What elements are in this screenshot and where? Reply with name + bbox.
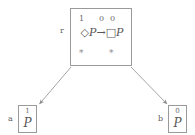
edge-root-to-b bbox=[131, 67, 167, 104]
asterisk-marker-0: * bbox=[79, 47, 84, 59]
asterisk-marker-1: * bbox=[109, 47, 114, 59]
box-operator-icon: □ bbox=[106, 26, 116, 39]
leaf-a-formula: P bbox=[19, 116, 36, 131]
leaf-world-label-a: a bbox=[8, 114, 13, 123]
root-world-box: 1 0 0 ◇P→□P * * bbox=[70, 8, 132, 66]
leaf-a-valuation: 1 bbox=[19, 107, 36, 116]
root-world-label: r bbox=[60, 26, 64, 35]
root-valuation-row: 1 0 0 bbox=[71, 13, 133, 25]
proposition-p-right: P bbox=[116, 26, 123, 39]
leaf-world-box-a: 1 P bbox=[18, 105, 37, 133]
diamond-operator-icon: ◇ bbox=[81, 26, 89, 39]
leaf-b-formula: P bbox=[169, 116, 186, 131]
root-formula: ◇P→□P bbox=[71, 26, 133, 40]
modal-logic-diagram: r 1 0 0 ◇P→□P * * a 1 P b 0 P bbox=[0, 0, 195, 135]
root-valuation-1: 0 bbox=[99, 13, 104, 25]
edge-root-to-a bbox=[40, 67, 72, 104]
leaf-b-valuation: 0 bbox=[169, 107, 186, 116]
root-valuation-0: 1 bbox=[79, 13, 84, 25]
leaf-world-label-b: b bbox=[158, 114, 163, 123]
implication-arrow-icon: → bbox=[96, 26, 105, 39]
root-marker-row: * * bbox=[71, 47, 133, 59]
root-valuation-2: 0 bbox=[110, 13, 115, 25]
leaf-world-box-b: 0 P bbox=[168, 105, 187, 133]
